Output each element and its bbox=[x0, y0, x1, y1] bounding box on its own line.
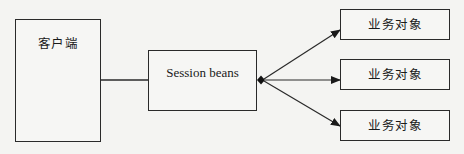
business-object-node-2: 业务对象 bbox=[340, 59, 450, 90]
client-label: 客户端 bbox=[16, 36, 100, 52]
client-node: 客户端 bbox=[15, 19, 101, 142]
business-object-label-1: 业务对象 bbox=[341, 17, 449, 33]
session-bo1-arrow bbox=[264, 30, 340, 79]
aggregation-diamond-icon bbox=[257, 76, 265, 85]
session-beans-node: Session beans bbox=[148, 50, 257, 111]
business-object-node-1: 业务对象 bbox=[340, 9, 450, 40]
business-object-node-3: 业务对象 bbox=[340, 110, 450, 141]
diagram-canvas: 客户端 Session beans 业务对象 业务对象 业务对象 bbox=[0, 0, 464, 154]
session-bo3-arrow bbox=[264, 81, 340, 126]
business-object-label-3: 业务对象 bbox=[341, 118, 449, 134]
business-object-label-2: 业务对象 bbox=[341, 67, 449, 83]
session-beans-label: Session beans bbox=[149, 65, 256, 81]
